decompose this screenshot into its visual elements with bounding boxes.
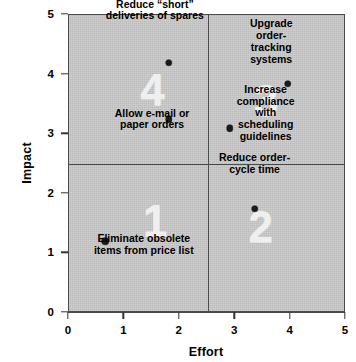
quadrant-numeral-4: 4 [140,68,163,112]
data-point [165,116,172,123]
x-tick-mark [67,312,68,319]
y-tick-label: 5 [34,8,54,20]
x-tick-label: 3 [231,324,237,336]
x-tick-label: 1 [120,324,126,336]
quadrant-divider-horizontal [69,164,344,165]
data-point [285,80,292,87]
y-tick-mark [61,73,68,74]
effort-impact-matrix-chart: Impact 012345 012345 1234 Eliminate obso… [0,0,356,362]
y-tick-label: 0 [34,306,54,318]
x-tick-label: 5 [342,324,348,336]
y-tick-mark [61,192,68,193]
quadrant-numeral-3: 3 [254,79,277,123]
data-point-label: Increase compliance with scheduling guid… [226,84,304,143]
quadrant-divider-vertical [208,15,209,311]
y-tick-label: 3 [34,127,54,139]
y-tick-mark [61,132,68,133]
y-tick-label: 2 [34,187,54,199]
x-tick-mark [123,312,124,319]
x-tick-mark [233,312,234,319]
y-tick-label: 1 [34,246,54,258]
x-tick-mark [289,312,290,319]
x-axis-title: Effort [189,345,224,359]
x-tick-mark [344,312,345,319]
x-tick-label: 0 [65,324,71,336]
data-point-label: Eliminate obsolete items from price list [94,233,194,257]
data-point [165,59,172,66]
data-point-label: Reduce “short” deliveries of spares [106,0,204,22]
x-tick-label: 4 [286,324,292,336]
x-axis-line [68,312,345,313]
data-point [226,125,233,132]
y-tick-label: 4 [34,68,54,80]
x-tick-mark [178,312,179,319]
y-axis-title: Impact [20,142,34,184]
plot-area: 1234 Eliminate obsolete items from price… [68,14,345,312]
data-point [251,205,258,212]
y-tick-mark [61,252,68,253]
data-point-label: Allow e-mail or paper orders [115,108,190,132]
data-point-label: Upgrade order- tracking systems [235,18,308,65]
quadrant-numeral-1: 1 [143,199,166,243]
x-tick-label: 2 [176,324,182,336]
y-tick-mark [61,13,68,14]
data-point [102,238,109,245]
